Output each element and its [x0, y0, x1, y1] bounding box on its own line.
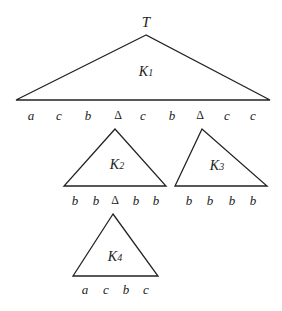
- tree-diagram: [0, 0, 282, 311]
- leaf-k2-0: b: [72, 194, 79, 207]
- root-label-t: T: [142, 15, 150, 30]
- leaf-k3-1: b: [207, 194, 214, 207]
- k4-sub: 4: [117, 252, 122, 263]
- leaf-k4-0: a: [82, 283, 89, 296]
- k4-main: K: [108, 249, 117, 264]
- leaf-k2-1: b: [93, 194, 100, 207]
- k3-main: K: [210, 158, 219, 173]
- k1-main: K: [139, 64, 148, 79]
- leaf-k1-0: a: [28, 109, 35, 122]
- triangle-k3: [175, 129, 267, 186]
- leaf-k3-0: b: [186, 194, 193, 207]
- triangle-label-k2: K2: [110, 158, 124, 172]
- leaf-k2-2: Δ: [111, 194, 119, 206]
- leaf-k1-1: c: [56, 109, 62, 122]
- triangle-k4: [73, 214, 158, 276]
- triangle-label-k3: K3: [210, 159, 224, 173]
- triangle-label-k1: K1: [139, 65, 153, 79]
- leaf-k1-8: c: [250, 109, 256, 122]
- leaf-k4-1: c: [103, 283, 109, 296]
- leaf-k1-4: c: [140, 109, 146, 122]
- leaf-k1-7: c: [224, 109, 230, 122]
- leaf-k1-2: b: [85, 109, 92, 122]
- leaf-k1-5: b: [169, 109, 176, 122]
- triangle-label-k4: K4: [108, 250, 122, 264]
- leaf-k3-2: b: [229, 194, 236, 207]
- leaf-k1-3: Δ: [114, 109, 122, 121]
- leaf-k2-3: b: [133, 194, 140, 207]
- k1-sub: 1: [148, 67, 153, 78]
- k2-sub: 2: [119, 160, 124, 171]
- k3-sub: 3: [219, 161, 224, 172]
- leaf-k4-2: b: [123, 283, 130, 296]
- k2-main: K: [110, 157, 119, 172]
- leaf-k1-6: Δ: [196, 109, 204, 121]
- leaf-k4-3: c: [143, 283, 149, 296]
- leaf-k3-3: b: [250, 194, 257, 207]
- leaf-k2-4: b: [153, 194, 160, 207]
